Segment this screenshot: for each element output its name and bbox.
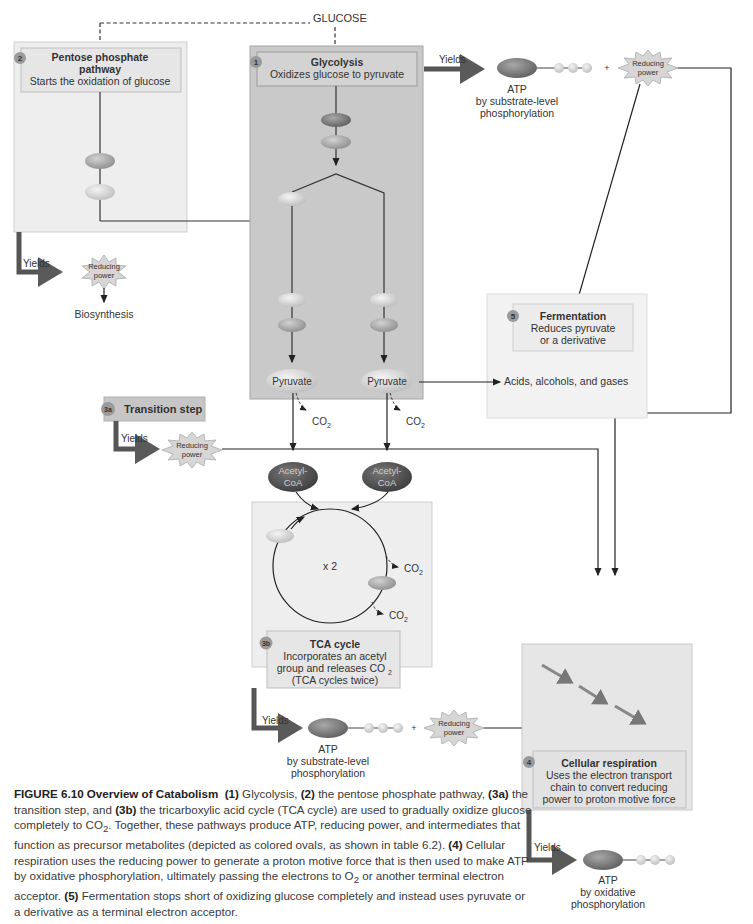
svg-text:2: 2 [18, 54, 23, 63]
svg-text:CO: CO [389, 610, 404, 621]
acetyl-coa-nodes: Acetyl- CoA Acetyl- CoA [268, 462, 412, 492]
svg-text:+: + [411, 723, 416, 733]
svg-text:Incorporates an acetyl: Incorporates an acetyl [283, 650, 386, 662]
svg-text:Yields: Yields [121, 433, 148, 444]
svg-text:Yields: Yields [262, 715, 289, 726]
precursor-metabolite [321, 135, 351, 149]
atp-icon [308, 718, 348, 738]
svg-text:CoA: CoA [284, 477, 303, 488]
figure-caption: FIGURE 6.10 Overview of Catabolism (1) G… [14, 786, 534, 919]
svg-text:Reducing: Reducing [176, 441, 208, 450]
svg-text:by substrate-level: by substrate-level [287, 755, 369, 767]
svg-text:ATP: ATP [318, 743, 338, 755]
svg-text:by oxidative: by oxidative [580, 886, 636, 898]
svg-text:or a derivative: or a derivative [540, 334, 606, 346]
svg-text:Yields: Yields [534, 842, 561, 853]
svg-text:Pyruvate: Pyruvate [367, 376, 407, 387]
figure-title: Overview of Catabolism [87, 787, 218, 800]
glycolysis-title: Glycolysis [311, 56, 364, 68]
svg-text:Pyruvate: Pyruvate [272, 376, 312, 387]
svg-text:chain to convert reducing: chain to convert reducing [550, 781, 667, 793]
respiration-yield: Yields ATP by oxidative phosphorylation [529, 810, 675, 910]
precursor-metabolite [266, 529, 294, 543]
tca-cycle-panel: x 2 CO 2 CO 2 3b TCA cycle Incorporates … [252, 492, 432, 688]
svg-text:CO: CO [312, 416, 327, 427]
precursor-metabolite [278, 192, 306, 206]
svg-text:phosphorylation: phosphorylation [291, 767, 365, 779]
precursor-metabolite [278, 318, 306, 332]
svg-text:Yields: Yields [23, 258, 50, 269]
svg-text:1: 1 [254, 58, 259, 67]
svg-text:Yields: Yields [439, 54, 466, 65]
precursor-metabolite [85, 184, 115, 200]
precursor-metabolite [368, 576, 396, 590]
precursor-metabolite [370, 293, 398, 307]
svg-text:(TCA cycles twice): (TCA cycles twice) [292, 674, 378, 686]
tca-title: TCA cycle [310, 638, 361, 650]
svg-text:4: 4 [527, 758, 532, 767]
svg-text:power to proton motive force: power to proton motive force [542, 793, 675, 805]
fermentation-products: Acids, alcohols, and gases [504, 375, 628, 387]
respiration-title: Cellular respiration [561, 757, 657, 769]
svg-text:by substrate-level: by substrate-level [476, 95, 558, 107]
svg-text:CoA: CoA [378, 477, 397, 488]
svg-text:power: power [182, 450, 203, 459]
svg-text:ATP: ATP [598, 874, 618, 886]
svg-text:3b: 3b [262, 640, 270, 647]
svg-text:2: 2 [404, 616, 408, 623]
svg-text:pathway: pathway [79, 63, 121, 75]
fermentation-title: Fermentation [540, 310, 607, 322]
fermentation-panel: 5 Fermentation Reduces pyruvate or a der… [419, 294, 647, 418]
glucose-label: GLUCOSE [313, 12, 367, 24]
svg-text:3a: 3a [104, 406, 112, 413]
svg-text:Reducing: Reducing [88, 262, 120, 271]
precursor-metabolite [278, 293, 306, 307]
svg-text:Acetyl-: Acetyl- [372, 465, 401, 476]
svg-text:power: power [638, 68, 659, 77]
svg-text:power: power [444, 728, 465, 737]
svg-text:Reduces pyruvate: Reduces pyruvate [531, 322, 616, 334]
svg-text:2: 2 [421, 422, 425, 429]
svg-text:phosphorylation: phosphorylation [571, 898, 645, 910]
precursor-metabolite [85, 153, 115, 169]
atp-icon [497, 58, 537, 78]
svg-text:CO: CO [406, 416, 421, 427]
glycolysis-panel: 1 Glycolysis Oxidizes glucose to pyruvat… [250, 46, 423, 399]
atp-icon [583, 850, 623, 870]
svg-text:2: 2 [388, 669, 392, 676]
svg-text:power: power [94, 271, 115, 280]
svg-text:Uses the electron transport: Uses the electron transport [546, 769, 672, 781]
cycle-multiplier: x 2 [323, 560, 337, 572]
svg-text:ATP: ATP [507, 83, 527, 95]
precursor-metabolite [370, 318, 398, 332]
pentose-phosphate-panel: 2 Pentose phosphate pathway Starts the o… [14, 42, 274, 232]
cellular-respiration-panel: 4 Cellular respiration Uses the electron… [522, 644, 692, 810]
svg-text:CO: CO [404, 563, 419, 574]
pyruvate-co2-release: CO 2 CO 2 [293, 393, 425, 450]
pentose-subtitle: Starts the oxidation of glucose [30, 75, 171, 87]
biosynthesis-label: Biosynthesis [75, 308, 134, 320]
svg-text:2: 2 [327, 422, 331, 429]
svg-text:Reducing: Reducing [632, 59, 664, 68]
svg-text:Acetyl-: Acetyl- [278, 465, 307, 476]
precursor-metabolite [321, 113, 351, 127]
transition-title: Transition step [124, 403, 203, 415]
pentose-title: Pentose phosphate [52, 51, 149, 63]
glycolysis-subtitle: Oxidizes glucose to pyruvate [270, 68, 404, 80]
svg-text:Reducing: Reducing [438, 719, 470, 728]
svg-text:group and releases CO: group and releases CO [277, 662, 386, 674]
pentose-yield: Yields Reducing power Biosynthesis [19, 232, 133, 320]
tca-yield: Yields + Reducing power ATP by substrate… [254, 688, 532, 779]
svg-text:2: 2 [419, 569, 423, 576]
svg-text:phosphorylation: phosphorylation [480, 107, 554, 119]
svg-text:5: 5 [511, 312, 516, 321]
svg-text:+: + [604, 63, 609, 73]
